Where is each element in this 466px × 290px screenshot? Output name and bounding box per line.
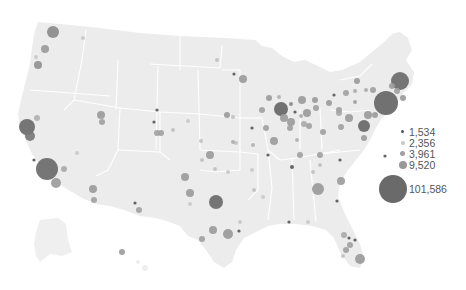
city-bubble [231, 140, 235, 144]
city-bubble [91, 197, 97, 203]
city-bubble [251, 143, 255, 147]
us-map [0, 0, 466, 290]
legend-label: 9,520 [409, 159, 435, 171]
legend-dot-icon [401, 141, 405, 145]
city-bubble [133, 201, 136, 204]
city-bubble [318, 163, 322, 167]
city-bubble [277, 95, 281, 99]
legend-dot-icon [399, 161, 407, 169]
city-bubble [298, 96, 306, 104]
city-bubble [250, 168, 254, 172]
city-bubble [370, 87, 376, 93]
city-bubble [215, 58, 219, 62]
city-bubble [252, 188, 256, 192]
city-bubble [372, 112, 378, 118]
city-bubble [287, 220, 290, 223]
city-bubble [136, 207, 142, 213]
city-bubble [280, 114, 288, 122]
city-bubble [320, 129, 326, 135]
city-bubble [155, 108, 158, 111]
city-bubble [34, 55, 38, 59]
city-bubble [343, 90, 349, 96]
city-bubble [290, 165, 294, 169]
city-bubble [326, 100, 332, 106]
city-bubble [209, 226, 217, 234]
city-bubble [89, 185, 97, 193]
city-bubble [263, 125, 269, 131]
city-bubble [188, 202, 192, 206]
alaska-shape [34, 218, 72, 262]
city-bubble [332, 93, 335, 96]
city-bubble [313, 105, 319, 111]
city-bubble [383, 154, 386, 157]
city-bubble [223, 229, 233, 239]
city-bubble [364, 111, 372, 119]
city-bubble [213, 167, 217, 171]
city-bubble [181, 173, 189, 181]
city-bubble [274, 102, 288, 116]
city-bubble [287, 118, 295, 126]
city-bubble [99, 119, 105, 125]
city-bubble [337, 177, 345, 185]
city-bubble [34, 115, 40, 121]
city-bubble [347, 236, 350, 239]
city-bubble [266, 153, 269, 156]
city-bubble [341, 254, 345, 258]
city-bubble [36, 158, 58, 180]
city-bubble [355, 254, 365, 264]
city-bubble [303, 109, 311, 117]
city-bubble [34, 61, 42, 69]
city-bubble [338, 124, 344, 130]
city-bubble [270, 137, 278, 145]
city-bubble [341, 232, 347, 238]
city-bubble [400, 95, 406, 101]
city-bubble [389, 83, 395, 89]
legend-dot-icon [400, 151, 405, 156]
city-bubble [347, 242, 353, 248]
city-bubble [354, 78, 360, 84]
city-bubble [226, 170, 230, 174]
hawaii-shape [142, 265, 148, 271]
legend-label: 101,586 [409, 183, 447, 195]
city-bubble [209, 195, 223, 209]
city-bubble [293, 110, 296, 113]
city-bubble [306, 220, 310, 224]
city-bubble [32, 158, 35, 161]
city-bubble [374, 91, 398, 115]
city-bubble [47, 26, 59, 38]
city-bubble [301, 121, 307, 127]
city-bubble [353, 89, 357, 93]
city-bubble [119, 249, 125, 255]
city-bubble [345, 114, 353, 122]
hawaii-shape [136, 260, 140, 264]
city-bubble [61, 166, 67, 172]
city-bubble [75, 151, 79, 155]
city-bubble [311, 170, 315, 174]
city-bubble [158, 130, 164, 136]
city-bubble [312, 183, 324, 195]
city-bubble [353, 238, 356, 241]
city-bubble [312, 97, 318, 103]
city-bubble [238, 220, 242, 224]
city-bubble [186, 189, 194, 197]
city-bubble [335, 199, 338, 202]
city-bubble [237, 229, 240, 232]
city-bubble [97, 111, 105, 119]
city-bubble [41, 45, 49, 53]
city-bubble [199, 139, 203, 143]
city-bubble [338, 158, 341, 161]
city-bubble [297, 152, 303, 158]
city-bubble [394, 88, 400, 94]
city-bubble [361, 135, 367, 141]
city-bubble [353, 100, 357, 104]
city-bubble [250, 126, 253, 129]
city-bubble [261, 195, 265, 199]
legend-dot-icon [379, 175, 407, 203]
city-bubble [336, 107, 342, 113]
city-bubble [186, 119, 190, 123]
city-bubble [239, 75, 247, 83]
city-bubble [259, 107, 265, 113]
city-bubble [266, 95, 272, 101]
city-bubble [231, 115, 235, 119]
city-bubble [81, 36, 85, 40]
